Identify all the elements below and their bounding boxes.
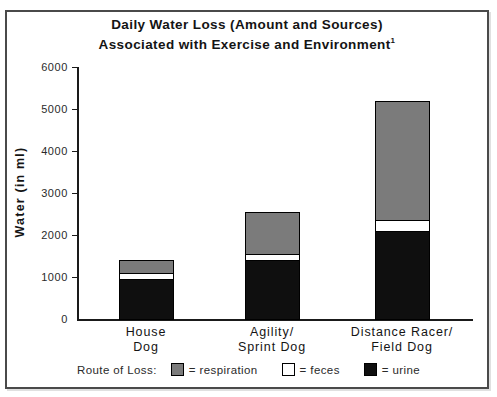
y-tick-mark [72,67,77,68]
bar-segment-respiration [245,212,300,255]
bar-segment-feces [375,220,430,232]
bar-segment-feces [245,254,300,261]
bar-segment-feces [119,273,174,280]
legend-item-feces: = feces [282,363,340,376]
y-tick-label: 3000 [26,187,68,199]
y-tick-label: 4000 [26,145,68,157]
plot-area: 0100020003000400050006000HouseDogAgility… [7,12,487,387]
legend-label-urine: = urine [382,364,420,376]
feces-swatch [282,363,295,376]
y-tick-label: 2000 [26,229,68,241]
bar-segment-urine [375,231,430,320]
y-tick-mark [72,151,77,152]
y-tick-mark [72,109,77,110]
y-tick-mark [72,277,77,278]
legend-title: Route of Loss: [77,364,157,376]
y-tick-label: 1000 [26,271,68,283]
legend-item-respiration: = respiration [171,363,258,376]
urine-swatch [364,363,377,376]
bar-segment-respiration [375,101,430,222]
legend-item-urine: = urine [364,363,420,376]
y-tick-mark [72,193,77,194]
x-axis-label: Distance Racer/Field Dog [317,325,487,355]
y-tick-label: 6000 [26,61,68,73]
legend-label-respiration: = respiration [189,364,258,376]
legend-label-feces: = feces [300,364,340,376]
y-tick-label: 0 [26,313,68,325]
bar-segment-urine [119,279,174,320]
bar-segment-respiration [119,260,174,274]
y-tick-mark [72,235,77,236]
y-axis-line [77,67,79,320]
legend: Route of Loss: = respiration = feces = u… [77,363,444,376]
respiration-swatch [171,363,184,376]
chart-panel: Daily Water Loss (Amount and Sources) As… [5,10,489,389]
bar-segment-urine [245,260,300,320]
y-tick-label: 5000 [26,103,68,115]
